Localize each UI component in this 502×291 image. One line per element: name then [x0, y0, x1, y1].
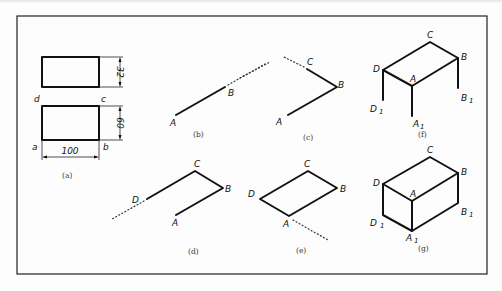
panel-c-edges-abc: A B C (c) [240, 57, 344, 142]
caption-e: (e) [296, 246, 306, 255]
panel-d-edges-abcd: A B C D (d) [112, 159, 231, 256]
label-D1-sub: 1 [380, 222, 384, 230]
label-C: C [307, 57, 314, 67]
caption-a: (a) [62, 171, 72, 180]
label-C: C [304, 159, 311, 169]
label-D1-sub: 1 [379, 108, 383, 116]
caption-d: (d) [188, 247, 199, 256]
label-C: C [427, 30, 434, 40]
label-A: A [409, 189, 416, 199]
label-B1-sub: 1 [469, 97, 473, 105]
label-A1: A [405, 233, 412, 243]
label-A1: A [412, 119, 419, 129]
label-A: A [171, 218, 178, 228]
label-B1: B [461, 93, 467, 103]
front-view-rect [42, 106, 99, 140]
label-B: B [338, 80, 344, 90]
label-A: A [409, 74, 416, 84]
dimension-60: 60 [115, 117, 125, 129]
label-B: B [461, 52, 467, 62]
label-c: c [101, 94, 106, 104]
isometric-drawing-figure: 32 60 100 d c a b (a) A B [0, 0, 502, 291]
panel-g-complete-box: A B C D D 1 A 1 B 1 (g) [370, 145, 473, 253]
label-D1: D [370, 218, 377, 228]
panel-a-orthographic-views: 32 60 100 d c a b (a) [32, 57, 125, 180]
label-A: A [282, 219, 289, 229]
label-D: D [248, 189, 255, 199]
figure-frame [17, 16, 487, 274]
label-a: a [32, 142, 38, 152]
panel-b-edge-ab: A B (b) [169, 64, 265, 139]
label-A: A [275, 117, 282, 127]
figure-canvas: 32 60 100 d c a b (a) A B [0, 0, 502, 291]
label-D1: D [370, 104, 377, 114]
dimension-100: 100 [61, 146, 78, 156]
caption-f: (f) [418, 130, 427, 139]
label-C: C [194, 159, 201, 169]
caption-b: (b) [193, 130, 204, 139]
caption-g: (g) [418, 244, 429, 253]
panel-f-top-face-with-verticals: A B C D D 1 A 1 B 1 (f) [370, 30, 473, 139]
label-D: D [132, 195, 139, 205]
label-B: B [225, 184, 231, 194]
label-C: C [427, 145, 434, 155]
label-B: B [340, 184, 346, 194]
dimension-32: 32 [115, 66, 125, 78]
label-B1: B [461, 207, 467, 217]
label-b: b [103, 142, 109, 152]
caption-c: (c) [303, 133, 313, 142]
label-A: A [169, 118, 176, 128]
label-d: d [34, 94, 40, 104]
label-B: B [228, 88, 234, 98]
panel-e-top-face: A B C D (e) [248, 159, 346, 255]
label-B1-sub: 1 [469, 211, 473, 219]
label-D: D [373, 178, 380, 188]
label-B: B [461, 167, 467, 177]
top-view-rect [42, 57, 99, 87]
label-D: D [373, 64, 380, 74]
